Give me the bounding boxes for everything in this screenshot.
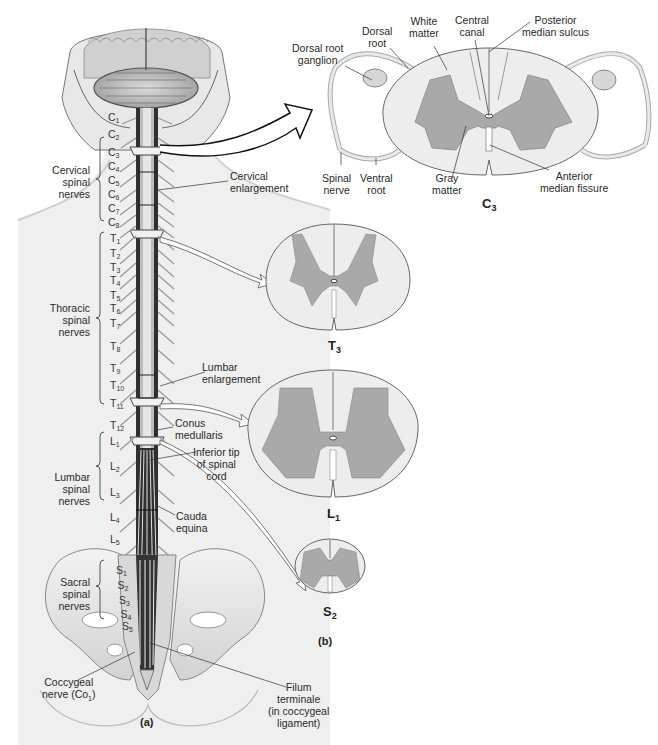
section-title-s2: S2 — [323, 604, 337, 621]
segment-label-c3: C3 — [108, 147, 120, 161]
segment-label-t7: T7 — [110, 318, 120, 332]
segment-label-l3: L3 — [110, 487, 120, 501]
segment-label-c4: C4 — [108, 161, 120, 175]
segment-label-c2: C2 — [108, 129, 120, 143]
segment-label-c6: C6 — [108, 189, 120, 203]
segment-label-t8: T8 — [110, 341, 120, 355]
white-matter-label: Whitematter — [409, 15, 439, 39]
segment-label-t12: T12 — [110, 420, 124, 434]
segment-label-t6: T6 — [110, 303, 120, 317]
section-title-t3: T3 — [328, 338, 341, 355]
segment-label-t10: T10 — [110, 380, 124, 394]
segment-label-t4: T4 — [110, 275, 120, 289]
sacral-spinal-nerves-label: Sacralspinalnerves — [26, 576, 90, 612]
central-canal-label: Centralcanal — [455, 14, 489, 38]
segment-label-t11: T11 — [110, 398, 124, 412]
coccygeal-nerve-label: Coccygeal nerve (Co1) — [42, 676, 96, 705]
segment-label-s3: S3 — [119, 595, 130, 609]
section-s2 — [295, 539, 365, 593]
anterior-median-fissure-label: Anteriormedian fissure — [540, 170, 608, 194]
thoracic-spinal-nerves-label: Thoracicspinalnerves — [26, 302, 90, 338]
segment-label-c1: C1 — [108, 112, 120, 126]
section-title-c3: C3 — [482, 196, 496, 213]
section-l1 — [248, 370, 418, 497]
section-t3 — [266, 224, 410, 330]
segment-label-t1: T1 — [110, 233, 120, 247]
conus-medullaris-label: Conusmedullaris — [175, 417, 223, 441]
lumbar-spinal-nerves-label: Lumbarspinalnerves — [26, 471, 90, 507]
segment-label-s1: S1 — [116, 565, 127, 579]
panel-label-a: (a) — [140, 716, 153, 728]
dorsal-root-label: Dorsalroot — [362, 25, 392, 49]
segment-label-l4: L4 — [110, 512, 120, 526]
cervical-spinal-nerves-label: Cervicalspinalnerves — [26, 164, 90, 200]
segment-label-l1: L1 — [110, 436, 120, 450]
figure-artwork — [0, 0, 658, 745]
segment-label-c7: C7 — [108, 203, 120, 217]
cervical-enlargement-label: Cervicalenlargement — [230, 170, 288, 194]
cauda-equina-label: Caudaequina — [176, 510, 208, 534]
segment-label-s5: S5 — [122, 621, 133, 635]
panel-label-b: (b) — [318, 635, 332, 647]
segment-label-l5: L5 — [110, 534, 120, 548]
segment-label-t2: T2 — [110, 248, 120, 262]
segment-label-s2: S2 — [118, 580, 129, 594]
lumbar-enlargement-label: Lumbarenlargement — [202, 361, 260, 385]
spinal-cord-figure: Cervicalspinalnerves Thoracicspinalnerve… — [0, 0, 658, 745]
filum-terminale-label: Filumterminale (in coccygealligament) — [268, 681, 329, 729]
segment-label-c5: C5 — [108, 175, 120, 189]
ventral-root-label: Ventralroot — [360, 172, 393, 196]
segment-label-t9: T9 — [110, 363, 120, 377]
spinal-nerve-label: Spinalnerve — [322, 172, 351, 196]
dorsal-root-ganglion-label: Dorsal rootganglion — [292, 42, 343, 66]
segment-label-l2: L2 — [110, 461, 120, 475]
section-title-l1: L1 — [327, 506, 340, 523]
gray-matter-label: Graymatter — [432, 172, 462, 196]
posterior-median-sulcus-label: Posteriormedian sulcus — [522, 14, 589, 38]
segment-label-c8: C8 — [108, 217, 120, 231]
inferior-tip-label: Inferior tipof spinalcord — [193, 446, 240, 482]
